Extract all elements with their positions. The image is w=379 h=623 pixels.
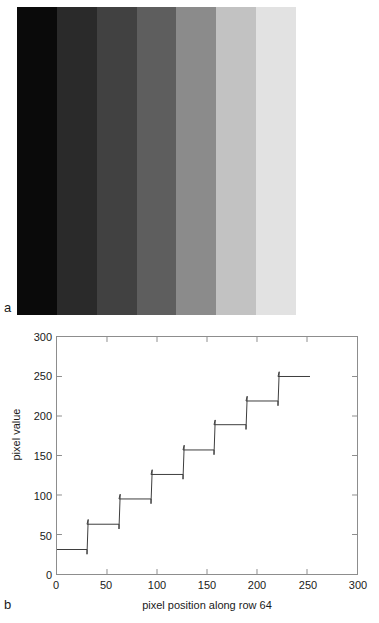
y-tick-300: 300 (6, 332, 52, 343)
gray-band-2 (57, 7, 97, 315)
panel-b-step-plot: 300 250 200 150 100 50 0 pixel value (0, 325, 379, 623)
x-tick-250: 250 (288, 580, 328, 591)
x-tick-300: 300 (338, 580, 378, 591)
gray-band-5 (176, 7, 216, 315)
gray-band-1 (17, 7, 57, 315)
x-axis-label: pixel position along row 64 (56, 599, 358, 611)
y-tick-100: 100 (6, 491, 52, 502)
panel-label-a: a (4, 300, 11, 315)
gray-band-7 (256, 7, 296, 315)
y-tick-50: 50 (6, 531, 52, 542)
x-tick-200: 200 (237, 580, 277, 591)
plot-area (56, 336, 358, 575)
series-brightness-path (57, 372, 310, 554)
x-tick-100: 100 (137, 580, 177, 591)
gray-band-4 (137, 7, 177, 315)
x-tick-0: 0 (36, 580, 76, 591)
gray-band-6 (216, 7, 256, 315)
panel-label-b: b (4, 597, 11, 612)
step-plot-svg (57, 337, 357, 574)
x-tick-150: 150 (187, 580, 227, 591)
y-tick-250: 250 (6, 371, 52, 382)
y-axis-ticks (57, 376, 357, 534)
panel-a-grayscale-figure: a (0, 0, 379, 325)
x-axis-ticks (107, 337, 307, 574)
grayscale-step-wedge-image (17, 7, 296, 315)
x-tick-50: 50 (86, 580, 126, 591)
gray-band-3 (97, 7, 137, 315)
y-axis-label: pixel value (11, 385, 22, 485)
x-axis-tick-labels: 0 50 100 150 200 250 300 (0, 580, 379, 596)
y-axis-tick-labels: 300 250 200 150 100 50 0 (0, 325, 52, 586)
